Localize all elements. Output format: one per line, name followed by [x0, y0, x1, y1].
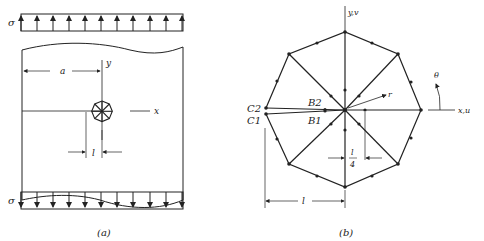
- theta-label: θ: [434, 71, 439, 80]
- xu-label: x,u: [458, 106, 470, 115]
- b2-label: B2: [307, 97, 322, 108]
- c2-label: C2: [247, 103, 261, 114]
- figure-b: y,v x,u θ: [247, 6, 470, 238]
- caption-b: (b): [339, 227, 353, 238]
- top-stress-bar: [21, 14, 183, 31]
- theta-arrow: [436, 84, 440, 110]
- l-label: l: [92, 148, 95, 158]
- sigma-top-label: σ: [8, 17, 16, 28]
- figure-a: σ y x a: [8, 14, 183, 238]
- y-label: y: [105, 58, 112, 68]
- crack-tip-figure: σ y x a: [0, 0, 484, 241]
- plate-outline: [22, 43, 183, 207]
- sigma-bottom-label: σ: [8, 195, 16, 206]
- yv-label: y,v: [347, 8, 359, 17]
- l4-numerator: l: [351, 148, 354, 157]
- up-arrows: [21, 16, 182, 31]
- b1-label: B1: [307, 115, 322, 126]
- caption-a: (a): [97, 227, 111, 238]
- c1-label: C1: [247, 115, 261, 126]
- a-label: a: [60, 66, 65, 76]
- l-label-b: l: [302, 196, 305, 206]
- octagon-rosette: [92, 101, 113, 122]
- down-arrows: [21, 192, 182, 207]
- l4-denominator: 4: [349, 160, 355, 169]
- x-label: x: [154, 106, 159, 116]
- r-label: r: [388, 90, 393, 99]
